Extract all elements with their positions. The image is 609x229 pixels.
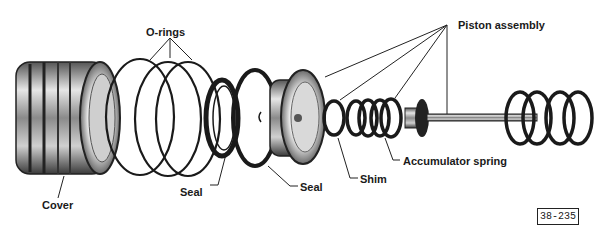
label-shim: Shim (360, 173, 387, 185)
o-rings-part (106, 59, 220, 176)
exploded-view-illustration (0, 0, 609, 229)
shim-part (324, 101, 344, 135)
diagram-canvas: O-rings Piston assembly Cover Seal Seal … (0, 0, 609, 229)
piston-rod-part (405, 99, 537, 137)
cover-part (16, 62, 120, 174)
label-seal-right: Seal (300, 181, 323, 193)
label-o-rings: O-rings (146, 26, 185, 38)
label-cover: Cover (42, 199, 73, 211)
label-accumulator-spring: Accumulator spring (403, 155, 507, 167)
label-piston-assembly: Piston assembly (458, 19, 545, 31)
piston-body-part (270, 70, 325, 164)
accumulator-spring-part (347, 99, 401, 137)
label-seal-left: Seal (180, 186, 203, 198)
figure-number-badge: 38-235 (537, 208, 579, 225)
